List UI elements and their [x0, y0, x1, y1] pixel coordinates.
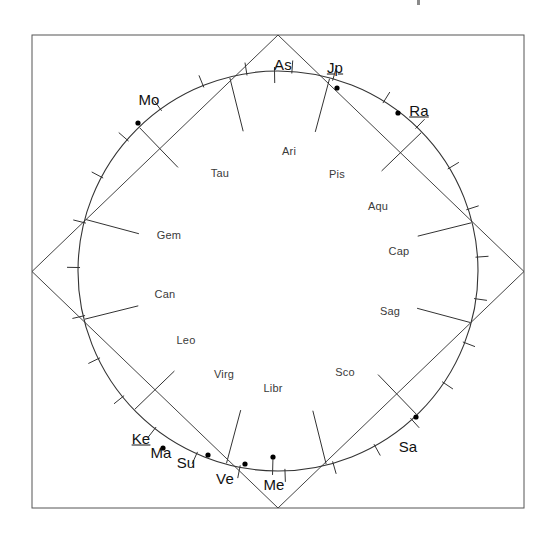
house-cusp-line: [227, 410, 241, 463]
planet-label-mo: Mo: [138, 91, 159, 108]
zodiac-label-libr: Libr: [263, 382, 282, 394]
planet-dot-su: [205, 452, 210, 457]
planet-position-dots: [135, 85, 418, 466]
tick-mark: [442, 382, 453, 389]
planet-dot-mo: [135, 120, 140, 125]
house-cusp-line: [86, 220, 139, 234]
planet-dot-sa: [413, 414, 418, 419]
zodiac-label-sco: Sco: [335, 366, 355, 378]
zodiac-label-tau: Tau: [211, 167, 229, 179]
tick-mark: [410, 418, 419, 428]
zodiac-label-ari: Ari: [282, 145, 296, 157]
tick-mark: [88, 358, 100, 364]
zodiac-label-virg: Virg: [214, 368, 234, 380]
tick-mark: [119, 133, 129, 142]
house-cusp-line: [85, 306, 138, 319]
house-cusp-line: [417, 308, 470, 322]
planet-dot-me: [270, 454, 275, 459]
planet-label-sa: Sa: [399, 438, 418, 455]
house-cusp-line: [313, 411, 326, 464]
zodiac-label-can: Can: [155, 288, 176, 300]
planet-label-me: Me: [263, 476, 284, 493]
planet-tick-marks: [273, 67, 275, 475]
chart-canvas: [0, 0, 554, 536]
zodiac-label-gem: Gem: [157, 229, 181, 241]
house-cusp-line: [140, 128, 178, 168]
planet-label-su: Su: [177, 454, 196, 471]
frame-square: [32, 35, 524, 508]
zodiac-label-leo: Leo: [177, 334, 196, 346]
planet-dot-ra: [395, 110, 400, 115]
house-cusp-line: [230, 78, 243, 131]
tick-mark: [92, 172, 103, 178]
planet-dot-ve: [242, 461, 247, 466]
planet-label-jp: Jp: [327, 59, 343, 76]
planet-label-as: As: [274, 56, 292, 73]
planet-label-ve: Ve: [216, 470, 234, 487]
tick-mark: [383, 92, 390, 103]
house-cusp-line: [382, 133, 422, 171]
tick-mark: [416, 119, 425, 128]
zodiac-label-pis: Pis: [329, 168, 345, 180]
house-cusp-line: [315, 79, 329, 132]
house-cusp-line: [418, 223, 471, 236]
inscribed-diamond: [32, 35, 524, 508]
planet-label-ra: Ra: [409, 102, 429, 119]
tick-mark: [374, 444, 380, 455]
tick-mark: [114, 396, 124, 404]
tick-mark: [448, 162, 459, 169]
planet-label-ke: Ke: [132, 430, 151, 447]
astrology-chart: AriTauGemCanLeoVirgLibrScoSagCapAquPis A…: [0, 0, 554, 536]
zodiac-label-cap: Cap: [389, 245, 410, 257]
degree-tick-marks: [67, 61, 488, 482]
zodiac-label-aqu: Aqu: [368, 200, 388, 212]
house-cusp-lines: [85, 78, 471, 464]
planet-label-ma: Ma: [150, 444, 171, 461]
planet-dot-jp: [334, 85, 339, 90]
zodiac-circle: [78, 71, 478, 471]
zodiac-label-sag: Sag: [380, 305, 400, 317]
tick-mark: [199, 75, 204, 87]
